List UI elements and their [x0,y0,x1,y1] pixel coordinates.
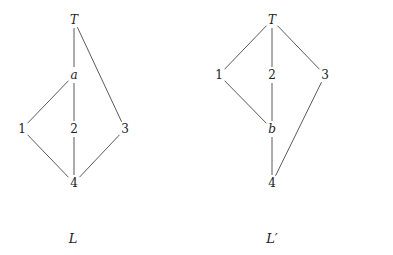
node-1: 1 [18,122,26,136]
node-3: 3 [321,68,329,82]
caption-L-prime: L′ [265,231,278,246]
node-4: 4 [268,176,276,190]
node-4: 4 [70,176,78,190]
edge-T-3 [77,27,121,122]
node-a: a [70,68,77,82]
caption-L: L [68,231,78,246]
edge-3-4 [79,135,119,177]
node-T: T [268,13,277,27]
lattice-diagrams: Ta1234 T123b4 L L′ [0,0,393,255]
node-b: b [268,122,276,136]
edge-a-1 [28,81,69,123]
node-2: 2 [70,122,78,136]
lattice-L-prime: T123b4 [215,13,329,190]
edge-3-4 [276,82,322,176]
node-2: 2 [268,68,276,82]
edge-1-4 [28,135,69,177]
node-3: 3 [121,122,129,136]
node-T: T [70,13,79,27]
edge-1-b [225,81,267,124]
node-1: 1 [215,68,223,82]
edge-T-1 [225,26,267,69]
edge-T-3 [278,26,320,69]
lattice-L: Ta1234 [18,13,129,190]
